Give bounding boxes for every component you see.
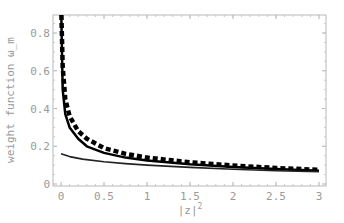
svg-text:0: 0	[58, 190, 65, 203]
svg-text:0.5: 0.5	[94, 190, 114, 203]
x-axis-label: |z|2	[178, 202, 203, 217]
svg-text:0.2: 0.2	[30, 140, 50, 153]
axis-ticks: 00.511.522.5300.20.40.60.8	[30, 15, 326, 203]
y-axis-label: weight function ω_m	[4, 37, 17, 163]
svg-text:0: 0	[43, 178, 50, 191]
svg-text:2.5: 2.5	[266, 190, 286, 203]
svg-text:0.6: 0.6	[30, 65, 50, 78]
svg-text:0.4: 0.4	[30, 103, 50, 116]
svg-text:2: 2	[230, 190, 237, 203]
dashed-thick-curve	[61, 15, 319, 170]
svg-text:0.8: 0.8	[30, 27, 50, 40]
svg-text:3: 3	[316, 190, 323, 203]
svg-text:1: 1	[144, 190, 151, 203]
chart: 00.511.522.5300.20.40.60.8 |z|2 weight f…	[0, 0, 344, 223]
data-curves	[61, 15, 319, 172]
